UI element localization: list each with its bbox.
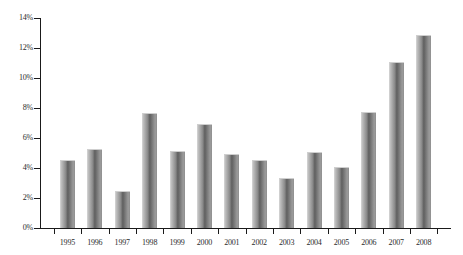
y-tick-label: 10% — [1, 74, 33, 82]
y-tick-label: 14% — [1, 14, 33, 22]
bar-chart: 0%2%4%6%8%10%12%14% 19951996199719981999… — [0, 0, 463, 255]
x-tick-mark — [355, 229, 356, 234]
y-tick-label: 2% — [1, 194, 33, 202]
x-tick-mark — [191, 229, 192, 234]
y-tick-label: 6% — [1, 134, 33, 142]
bar — [361, 112, 376, 229]
x-tick-mark — [136, 229, 137, 234]
bar — [224, 154, 239, 229]
bar — [389, 62, 404, 228]
x-tick-mark — [300, 229, 301, 234]
bars-layer — [40, 18, 455, 228]
bar — [307, 152, 322, 228]
x-tick-mark — [163, 229, 164, 234]
x-tick-mark — [383, 229, 384, 234]
bar — [334, 167, 349, 228]
bar — [279, 178, 294, 229]
x-tick-mark — [328, 229, 329, 234]
x-tick-mark — [54, 229, 55, 234]
bar — [115, 191, 130, 228]
y-tick-label: 12% — [1, 44, 33, 52]
x-tick-mark — [109, 229, 110, 234]
bar — [142, 113, 157, 228]
y-tick-label: 8% — [1, 104, 33, 112]
x-tick-mark — [218, 229, 219, 234]
x-tick-label: 2008 — [404, 238, 444, 247]
bar — [197, 124, 212, 229]
bar — [416, 35, 431, 228]
x-tick-mark — [437, 229, 438, 234]
x-tick-mark — [246, 229, 247, 234]
bar — [252, 160, 267, 229]
bar — [170, 151, 185, 229]
y-axis-labels: 0%2%4%6%8%10%12%14% — [0, 0, 33, 255]
x-tick-mark — [81, 229, 82, 234]
y-tick-label: 0% — [1, 224, 33, 232]
bar — [60, 160, 75, 229]
x-tick-mark — [273, 229, 274, 234]
bar — [87, 149, 102, 228]
x-tick-mark — [410, 229, 411, 234]
y-tick-label: 4% — [1, 164, 33, 172]
